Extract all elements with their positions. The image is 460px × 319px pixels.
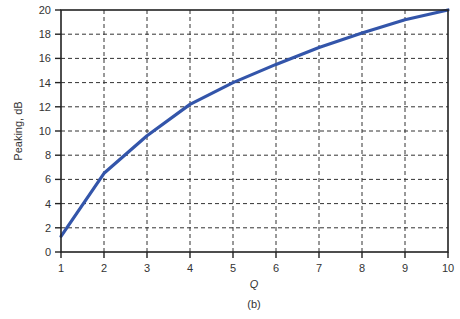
y-tick-label: 0 xyxy=(45,246,51,258)
y-axis-ticks: 02468101214161820 xyxy=(39,4,61,258)
y-tick-label: 10 xyxy=(39,125,51,137)
figure-caption: (b) xyxy=(247,298,260,310)
x-tick-label: 10 xyxy=(442,262,454,274)
y-tick-label: 16 xyxy=(39,52,51,64)
x-tick-label: 2 xyxy=(101,262,107,274)
x-tick-label: 1 xyxy=(58,262,64,274)
y-tick-label: 2 xyxy=(45,222,51,234)
y-tick-label: 8 xyxy=(45,149,51,161)
x-axis-ticks: 12345678910 xyxy=(58,252,454,274)
peaking-vs-q-chart: 02468101214161820 12345678910 Peaking, d… xyxy=(0,0,460,319)
x-tick-label: 5 xyxy=(230,262,236,274)
y-axis-label: Peaking, dB xyxy=(12,101,24,160)
series-line xyxy=(61,10,448,236)
x-tick-label: 8 xyxy=(359,262,365,274)
y-tick-label: 6 xyxy=(45,173,51,185)
y-tick-label: 14 xyxy=(39,77,51,89)
peaking-curve xyxy=(61,10,448,236)
x-tick-label: 7 xyxy=(316,262,322,274)
y-tick-label: 20 xyxy=(39,4,51,16)
x-tick-label: 4 xyxy=(187,262,193,274)
x-tick-label: 9 xyxy=(402,262,408,274)
x-tick-label: 6 xyxy=(273,262,279,274)
y-tick-label: 12 xyxy=(39,101,51,113)
x-tick-label: 3 xyxy=(144,262,150,274)
y-tick-label: 4 xyxy=(45,198,51,210)
grid-lines xyxy=(61,10,448,252)
y-tick-label: 18 xyxy=(39,28,51,40)
x-axis-label: Q xyxy=(250,278,259,290)
